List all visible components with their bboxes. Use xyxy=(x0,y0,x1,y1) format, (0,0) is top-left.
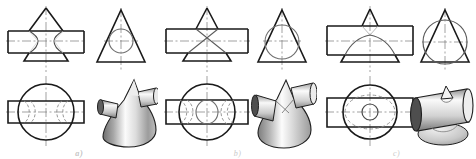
cylinder-left-end-face xyxy=(98,100,104,115)
panel-b-caption: b) xyxy=(158,149,317,158)
front-view-a xyxy=(6,6,86,72)
panel-a-caption: a) xyxy=(0,149,158,158)
panel-a: a) a) xyxy=(0,0,158,159)
side-view-a xyxy=(97,8,145,70)
cylinder-left-end-face xyxy=(252,95,259,116)
side-view-c xyxy=(421,8,469,70)
pictorial-view-b xyxy=(252,80,318,148)
panel-a-drawing xyxy=(0,0,158,159)
front-view-c xyxy=(325,6,413,72)
front-view-b xyxy=(164,6,250,72)
panel-b: b) xyxy=(158,0,317,159)
drawing-sheet: a) a) xyxy=(0,0,476,159)
panel-c-caption: c) xyxy=(317,149,476,158)
cylinder-rectangle xyxy=(8,101,84,123)
panel-c-drawing xyxy=(317,0,476,159)
side-view-b xyxy=(258,8,306,70)
top-view-c xyxy=(325,76,413,146)
pictorial-view-c xyxy=(411,86,474,145)
panel-b-drawing xyxy=(158,0,317,159)
cylinder-left-end-face xyxy=(411,98,422,131)
intersection-curve-right xyxy=(54,31,63,53)
intersection-curve-left xyxy=(29,31,38,53)
cylinder-right-end-face xyxy=(310,83,317,104)
top-view-b xyxy=(164,76,250,146)
top-view-a xyxy=(6,76,86,146)
panel-c: c) xyxy=(317,0,476,159)
pictorial-view-a xyxy=(98,80,159,147)
cylinder-right-end-face xyxy=(463,89,473,122)
